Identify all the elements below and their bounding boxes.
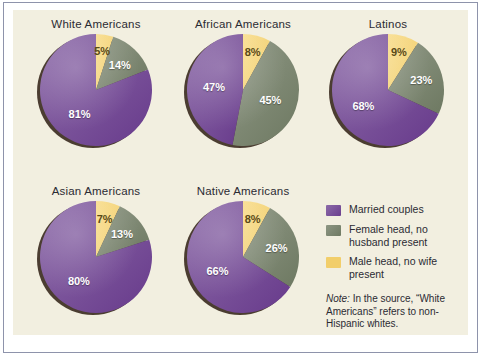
legend-label-female-head: Female head, no husband present: [349, 223, 466, 248]
pie-chart-title: White Americans: [21, 18, 171, 30]
pie-graphic: 8%26%66%: [187, 201, 299, 313]
legend-item-female-head: Female head, no husband present: [326, 223, 466, 248]
slice-value-label: 80%: [68, 275, 90, 287]
legend-label-male-head: Male head, no wife present: [349, 255, 466, 280]
pie-chart-1: White Americans5%14%81%: [21, 18, 171, 146]
legend-swatch-male-head: [326, 257, 341, 268]
pie-slices: [332, 34, 444, 146]
pie-graphic: 7%13%80%: [40, 201, 152, 313]
pie-graphic: 9%23%68%: [332, 34, 444, 146]
pie-chart-title: Latinos: [313, 18, 463, 30]
slice-value-label: 45%: [259, 94, 281, 106]
slice-value-label: 81%: [69, 108, 91, 120]
pie-slices: [187, 201, 299, 313]
legend-swatch-married: [326, 205, 341, 216]
slice-value-label: 13%: [111, 228, 133, 240]
source-note: Note: In the source, “White Americans” r…: [326, 293, 468, 331]
slice-value-label: 5%: [94, 45, 110, 57]
slice-value-label: 66%: [206, 265, 228, 277]
pie-chart-title: Asian Americans: [21, 185, 171, 197]
slice-value-label: 9%: [391, 46, 407, 58]
pie-chart-2: African Americans8%45%47%: [168, 18, 318, 146]
pie-chart-3: Latinos9%23%68%: [313, 18, 463, 146]
pie-graphic: 5%14%81%: [40, 34, 152, 146]
slice-value-label: 47%: [203, 81, 225, 93]
legend-swatch-female-head: [326, 225, 341, 236]
slice-value-label: 8%: [245, 213, 261, 225]
slice-value-label: 68%: [352, 100, 374, 112]
pie-chart-title: Native Americans: [168, 185, 318, 197]
note-prefix: Note:: [326, 293, 350, 304]
legend-label-married: Married couples: [349, 203, 424, 216]
slice-value-label: 14%: [109, 59, 131, 71]
slice-value-label: 26%: [266, 242, 288, 254]
pie-chart-4: Asian Americans7%13%80%: [21, 185, 171, 313]
slice-value-label: 8%: [245, 46, 261, 58]
legend-item-male-head: Male head, no wife present: [326, 255, 466, 280]
pie-chart-5: Native Americans8%26%66%: [168, 185, 318, 313]
legend-item-married: Married couples: [326, 203, 466, 216]
legend: Married couples Female head, no husband …: [326, 203, 466, 287]
pie-chart-title: African Americans: [168, 18, 318, 30]
pie-graphic: 8%45%47%: [187, 34, 299, 146]
figure-root: White Americans5%14%81%African Americans…: [0, 0, 481, 356]
figure-panel: White Americans5%14%81%African Americans…: [13, 10, 468, 335]
slice-value-label: 7%: [97, 213, 113, 225]
slice-value-label: 23%: [410, 74, 432, 86]
